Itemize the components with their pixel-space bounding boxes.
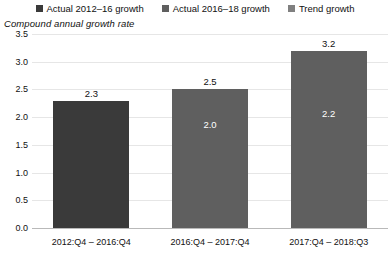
x-axis-tick-label: 2017:Q4 – 2018:Q3 bbox=[269, 238, 388, 247]
gridline bbox=[32, 34, 388, 35]
y-axis-tick-label: 0.0 bbox=[2, 224, 28, 233]
chart-subtitle: Compound annual growth rate bbox=[4, 18, 135, 29]
x-axis-tick-label: 2012:Q4 – 2016:Q4 bbox=[32, 238, 151, 247]
y-axis-tick-label: 2.5 bbox=[2, 85, 28, 94]
legend-label: Actual 2016–18 growth bbox=[173, 4, 270, 14]
y-axis-tick-label: 0.5 bbox=[2, 196, 28, 205]
legend-label: Actual 2012–16 growth bbox=[47, 4, 144, 14]
chart-plot-area: 0.00.51.01.52.02.53.03.52.32.52.03.22.2 bbox=[32, 34, 388, 228]
gridline bbox=[32, 228, 388, 229]
legend-item-actual-2012-16: Actual 2012–16 growth bbox=[36, 4, 144, 14]
bar[interactable]: 3.22.2 bbox=[291, 51, 367, 228]
bar-trend-label: 2.2 bbox=[291, 109, 367, 119]
bar-value-label: 3.2 bbox=[291, 39, 367, 49]
y-axis-tick-label: 3.0 bbox=[2, 58, 28, 67]
y-axis-tick-label: 1.0 bbox=[2, 169, 28, 178]
legend-item-actual-2016-18: Actual 2016–18 growth bbox=[162, 4, 270, 14]
bar-value-label: 2.3 bbox=[53, 89, 129, 99]
legend-label: Trend growth bbox=[299, 4, 355, 14]
y-axis-tick-label: 1.5 bbox=[2, 141, 28, 150]
bar[interactable]: 2.3 bbox=[53, 101, 129, 228]
bar[interactable]: 2.52.0 bbox=[172, 89, 248, 228]
legend-swatch-icon bbox=[36, 5, 43, 12]
x-axis-labels: 2012:Q4 – 2016:Q42016:Q4 – 2017:Q42017:Q… bbox=[32, 232, 388, 250]
chart-legend: Actual 2012–16 growth Actual 2016–18 gro… bbox=[0, 1, 390, 16]
legend-item-trend-growth: Trend growth bbox=[288, 4, 355, 14]
y-axis-tick-label: 3.5 bbox=[2, 30, 28, 39]
bar-value-label: 2.5 bbox=[172, 77, 248, 87]
legend-swatch-icon bbox=[162, 5, 169, 12]
bar-trend-label: 2.0 bbox=[172, 120, 248, 130]
x-axis-tick-label: 2016:Q4 – 2017:Q4 bbox=[151, 238, 270, 247]
legend-swatch-icon bbox=[288, 5, 295, 12]
y-axis-tick-label: 2.0 bbox=[2, 113, 28, 122]
